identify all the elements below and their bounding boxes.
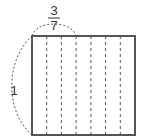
unit-square — [32, 36, 135, 135]
strip-dividers — [47, 36, 121, 135]
fraction-denominator: 7 — [50, 18, 57, 33]
unit-square-diagram: 3 7 1 — [0, 0, 143, 139]
fraction-numerator: 3 — [50, 3, 57, 18]
side-length-label: 1 — [10, 83, 17, 98]
